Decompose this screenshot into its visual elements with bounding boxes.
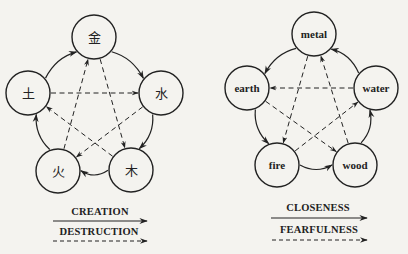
wood-label: 木: [125, 163, 138, 178]
node-metal: metal: [292, 12, 336, 56]
node-fire: fire: [255, 143, 299, 187]
node-water: 水: [139, 71, 183, 115]
legend-destruction-label: DESTRUCTION: [59, 226, 138, 237]
dashed-arrow-wood-to-metal: [321, 56, 348, 143]
arrow-earth-to-metal: [46, 52, 77, 78]
legend-closeness-label: CLOSENESS: [286, 202, 350, 213]
wood-label: wood: [342, 159, 367, 171]
water-label: water: [363, 82, 390, 94]
english-elements-diagram: metalwaterwoodfireearth CLOSENESS FEARFU…: [225, 12, 398, 240]
arrow-earth-to-fire: [255, 109, 268, 143]
arrow-metal-to-water: [112, 52, 144, 78]
node-metal: 金: [72, 15, 116, 59]
element-nodes: metalwaterwoodfireearth: [225, 12, 398, 187]
metal-label: metal: [301, 28, 327, 40]
arrow-fire-to-earth: [36, 114, 50, 149]
element-nodes: 金水木火土: [6, 15, 183, 193]
earth-label: earth: [234, 82, 259, 94]
arrow-wood-to-water: [361, 110, 371, 143]
node-wood: wood: [333, 143, 377, 187]
dashed-arrow-metal-to-fire: [283, 56, 307, 143]
node-wood: 木: [109, 148, 153, 192]
node-earth: 土: [6, 71, 50, 115]
water-label: 水: [155, 86, 168, 101]
fire-label: fire: [269, 159, 285, 171]
legend-right: CLOSENESS FEARFULNESS: [271, 202, 367, 240]
dashed-arrow-metal-to-wood: [100, 59, 125, 148]
arrow-water-to-metal: [331, 49, 358, 73]
node-water: water: [354, 66, 398, 110]
legend-fearfulness-label: FEARFULNESS: [280, 224, 358, 235]
destruction-arrows: [46, 59, 142, 157]
arrow-water-to-wood: [139, 114, 152, 148]
arrow-metal-to-earth: [265, 48, 296, 73]
arrow-wood-to-fire: [81, 170, 108, 175]
metal-label: 金: [88, 30, 101, 45]
arrow-fire-to-wood: [300, 165, 332, 169]
chinese-elements-diagram: 金水木火土 CREATION DESTRUCTION: [6, 15, 183, 241]
legend-creation-label: CREATION: [71, 206, 129, 217]
five-elements-figure: 金水木火土 CREATION DESTRUCTION metalwaterwoo…: [0, 0, 408, 254]
fearfulness-arrows: [266, 56, 358, 152]
legend-left: CREATION DESTRUCTION: [53, 206, 147, 241]
earth-label: 土: [22, 86, 35, 101]
fire-label: 火: [52, 164, 65, 179]
node-fire: 火: [36, 149, 80, 193]
node-earth: earth: [225, 66, 269, 110]
